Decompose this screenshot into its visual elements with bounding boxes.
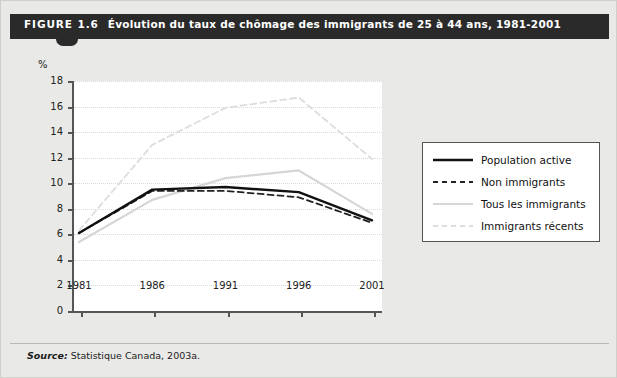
legend-label: Population active — [481, 154, 571, 166]
x-axis-tick — [374, 311, 376, 317]
legend-label: Non immigrants — [481, 176, 565, 188]
legend-item[interactable]: Population active — [433, 150, 571, 170]
y-axis-tick-label: 10 — [35, 177, 63, 188]
source-divider — [10, 343, 609, 344]
legend-label: Immigrants récents — [481, 220, 584, 232]
figure-container: FIGURE 1.6Évolution du taux de chômage d… — [0, 0, 617, 378]
chart-area: % 024681012141618 19811986199119962001 P… — [1, 41, 617, 341]
x-axis-tick-label: 1981 — [56, 280, 102, 291]
legend-swatch-icon — [433, 198, 473, 210]
x-axis-tick — [154, 311, 156, 317]
y-axis-tick — [68, 311, 74, 313]
y-axis-tick — [68, 81, 74, 83]
x-axis-tick-label: 2001 — [349, 280, 395, 291]
legend-item[interactable]: Non immigrants — [433, 172, 565, 192]
legend-swatch-icon — [433, 220, 473, 232]
y-axis-tick-label: 0 — [35, 305, 63, 316]
series-line — [79, 98, 372, 231]
x-axis-tick — [301, 311, 303, 317]
y-axis-tick-label: 16 — [35, 101, 63, 112]
figure-title-label: Évolution du taux de chômage des immigra… — [108, 18, 561, 30]
y-axis-tick — [68, 260, 74, 262]
y-axis-tick — [68, 234, 74, 236]
y-axis-tick-label: 6 — [35, 228, 63, 239]
y-axis-tick — [68, 132, 74, 134]
y-axis-tick — [68, 107, 74, 109]
series-line — [79, 191, 372, 233]
x-axis-tick — [228, 311, 230, 317]
y-axis-tick — [68, 183, 74, 185]
chart-legend: Population activeNon immigrantsTous les … — [422, 142, 600, 242]
legend-item[interactable]: Immigrants récents — [433, 216, 584, 236]
legend-swatch-icon — [433, 154, 473, 166]
x-axis-tick — [81, 311, 83, 317]
legend-item[interactable]: Tous les immigrants — [433, 194, 586, 214]
y-axis-tick-label: 12 — [35, 152, 63, 163]
y-axis-tick — [68, 209, 74, 211]
source-prefix: Source: — [27, 350, 68, 361]
source-text: Statistique Canada, 2003a. — [71, 350, 200, 361]
legend-swatch-icon — [433, 176, 473, 188]
x-axis-tick-label: 1996 — [276, 280, 322, 291]
data-series-group — [72, 81, 380, 311]
legend-label: Tous les immigrants — [481, 198, 586, 210]
series-line — [79, 187, 372, 233]
x-axis-tick-label: 1991 — [203, 280, 249, 291]
y-axis-tick — [68, 158, 74, 160]
figure-title-text: FIGURE 1.6Évolution du taux de chômage d… — [24, 18, 561, 30]
y-axis-tick-label: 18 — [35, 75, 63, 86]
figure-title-banner: FIGURE 1.6Évolution du taux de chômage d… — [10, 14, 609, 39]
figure-number-label: FIGURE 1.6 — [24, 18, 99, 30]
y-axis-unit-label: % — [38, 59, 48, 70]
y-axis-tick-label: 8 — [35, 203, 63, 214]
y-axis-tick-label: 4 — [35, 254, 63, 265]
y-axis-tick-label: 14 — [35, 126, 63, 137]
x-axis-tick-label: 1986 — [129, 280, 175, 291]
source-note: Source: Statistique Canada, 2003a. — [27, 350, 200, 361]
